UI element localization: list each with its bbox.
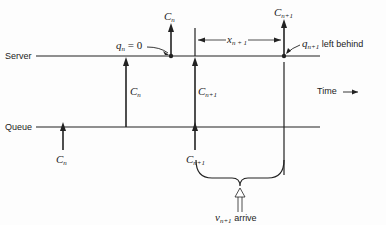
qn-label: qn = 0 [116,39,142,53]
xn1-label: xn + 1 [226,33,248,47]
queue-line-label: Queue [5,122,32,132]
cn1-departure-label: Cn+1 [274,6,293,20]
vn1-label: vn+1 arrive [215,211,257,225]
server-line-label: Server [5,51,32,61]
cn1-server-label: Cn+1 [198,85,217,99]
diagram-lines [0,0,386,225]
cn-departure-label: Cn [164,10,175,24]
cn-server-label: Cn [130,85,141,99]
cn1-queue-label: Cn+1 [186,153,205,167]
time-axis-label: Time [317,86,337,96]
qn1-label: qn+1 left behind [302,37,363,51]
queue-timeline-diagram: Server Queue Time Cn Cn Cn Cn+1 Cn+1 Cn+… [0,0,386,225]
cn-queue-label: Cn [56,153,67,167]
